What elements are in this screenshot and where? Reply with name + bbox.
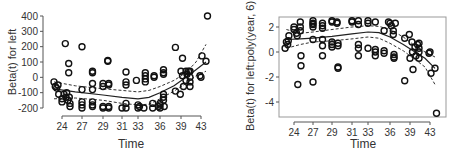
- svg-text:31: 31: [116, 121, 128, 132]
- data-points: [51, 13, 211, 111]
- svg-text:300: 300: [21, 26, 38, 37]
- svg-text:-2: -2: [265, 72, 274, 83]
- svg-text:-4: -4: [265, 97, 274, 108]
- svg-text:36: 36: [154, 121, 166, 132]
- svg-text:400: 400: [21, 11, 38, 22]
- svg-text:24: 24: [56, 121, 68, 132]
- svg-text:100: 100: [21, 57, 38, 68]
- y-axis-label: Beta(t) for left:poly(year, 6): [244, 1, 256, 131]
- svg-text:33: 33: [132, 121, 144, 132]
- y-axis-label: Beta(t) for left: [6, 29, 18, 96]
- svg-text:200: 200: [21, 41, 38, 52]
- svg-text:24: 24: [288, 127, 300, 138]
- svg-text:29: 29: [326, 127, 338, 138]
- svg-text:43: 43: [195, 121, 207, 132]
- svg-text:0: 0: [268, 47, 274, 58]
- figure: -200-10001002003004002427293133363943 Ti…: [0, 0, 453, 156]
- x-axis-label: Time: [118, 137, 145, 151]
- svg-text:0: 0: [32, 72, 38, 83]
- svg-text:36: 36: [384, 127, 396, 138]
- svg-text:2: 2: [268, 22, 274, 33]
- svg-text:39: 39: [404, 127, 416, 138]
- svg-text:39: 39: [175, 121, 187, 132]
- svg-text:43: 43: [424, 127, 436, 138]
- svg-text:27: 27: [76, 121, 88, 132]
- x-axis-label: Time: [350, 137, 377, 151]
- chart-beta-left: -200-10001002003004002427293133363943 Ti…: [0, 0, 226, 156]
- svg-text:27: 27: [307, 127, 319, 138]
- svg-text:-100: -100: [18, 87, 38, 98]
- svg-text:-200: -200: [18, 103, 38, 114]
- svg-text:29: 29: [97, 121, 109, 132]
- chart-beta-left-poly-year: -4-2022427293133363943 Time Beta(t) for …: [226, 0, 453, 156]
